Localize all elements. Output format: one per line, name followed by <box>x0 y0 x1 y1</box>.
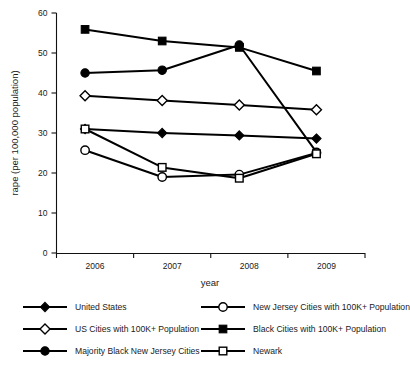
legend-swatch-open-square <box>200 344 246 358</box>
legend-item-label: US Cities with 100K+ Population <box>75 324 199 334</box>
legend-item[interactable]: Newark <box>200 340 378 362</box>
data-point-marker-filled-square <box>81 26 89 34</box>
y-tick-label: 30 <box>38 128 48 138</box>
y-axis-ticks: 0102030405060 <box>38 8 56 258</box>
data-point-marker-open-square <box>313 150 321 158</box>
legend-column-left: United StatesUS Cities with 100K+ Popula… <box>22 296 200 362</box>
chart-legend: United StatesUS Cities with 100K+ Popula… <box>22 296 378 362</box>
data-point-marker-open-square <box>158 164 166 172</box>
y-tick-label: 0 <box>43 248 48 258</box>
legend-swatch-open-diamond <box>22 322 68 336</box>
legend-item[interactable]: United States <box>22 296 200 318</box>
y-tick-label: 20 <box>38 168 48 178</box>
y-axis: 0102030405060 <box>38 8 56 258</box>
data-point-marker-open-diamond <box>40 324 50 334</box>
data-point-marker-filled-diamond <box>235 131 244 140</box>
chart-series <box>85 129 316 139</box>
data-point-marker-filled-square <box>236 44 244 52</box>
legend-swatch-filled-diamond <box>22 300 68 314</box>
data-point-marker-filled-circle <box>158 66 166 74</box>
x-axis-ticks: 2006200720082009 <box>57 253 366 271</box>
legend-item[interactable]: Majority Black New Jersey Cities <box>22 340 200 362</box>
legend-item-label: Black Cities with 100K+ Population <box>253 324 386 334</box>
data-point-marker-open-circle <box>158 173 166 181</box>
data-point-marker-filled-diamond <box>40 302 49 311</box>
y-axis-title: rape (per 100,000 population) <box>9 70 20 195</box>
data-point-marker-filled-circle <box>41 347 49 355</box>
legend-item-label: United States <box>75 302 127 312</box>
data-point-marker-open-square <box>236 174 244 182</box>
data-point-marker-open-circle <box>219 303 227 311</box>
legend-column-right: New Jersey Cities with 100K+ PopulationB… <box>200 296 378 362</box>
series-line <box>85 29 316 71</box>
data-point-marker-open-diamond <box>234 100 244 110</box>
chart-series-group <box>80 26 321 182</box>
legend-swatch-filled-circle <box>22 344 68 358</box>
data-point-marker-filled-circle <box>81 69 89 77</box>
data-point-marker-filled-square <box>158 37 166 45</box>
data-point-marker-open-circle <box>81 146 89 154</box>
legend-swatch-open-circle <box>200 300 246 314</box>
chart-series <box>85 29 316 71</box>
data-point-marker-filled-diamond <box>312 134 321 143</box>
x-axis-title: year <box>201 277 219 288</box>
x-tick-label: 2008 <box>240 261 259 271</box>
legend-item[interactable]: Black Cities with 100K+ Population <box>200 318 378 340</box>
legend-item[interactable]: US Cities with 100K+ Population <box>22 318 200 340</box>
legend-swatch-filled-square <box>200 322 246 336</box>
data-point-marker-filled-square <box>219 325 227 333</box>
legend-item-label: Newark <box>253 346 282 356</box>
data-point-marker-open-square <box>219 347 227 355</box>
x-axis: 2006200720082009 <box>57 253 366 271</box>
data-point-marker-filled-square <box>313 67 321 75</box>
x-tick-label: 2009 <box>317 261 336 271</box>
data-point-marker-open-square <box>81 125 89 133</box>
legend-item[interactable]: New Jersey Cities with 100K+ Population <box>200 296 378 318</box>
data-point-marker-filled-diamond <box>158 128 167 137</box>
legend-item-label: New Jersey Cities with 100K+ Population <box>253 302 410 312</box>
x-tick-label: 2007 <box>163 261 182 271</box>
chart-plot-area: 0102030405060 2006200720082009 rape (per… <box>0 0 392 292</box>
y-tick-label: 60 <box>38 8 48 18</box>
series-markers <box>81 26 320 75</box>
data-point-marker-open-diamond <box>157 96 167 106</box>
series-line <box>85 129 316 139</box>
legend-item-label: Majority Black New Jersey Cities <box>75 346 200 356</box>
y-tick-label: 10 <box>38 208 48 218</box>
y-tick-label: 40 <box>38 88 48 98</box>
x-tick-label: 2006 <box>86 261 105 271</box>
y-tick-label: 50 <box>38 48 48 58</box>
data-point-marker-open-diamond <box>311 105 321 115</box>
data-point-marker-open-diamond <box>80 91 90 101</box>
